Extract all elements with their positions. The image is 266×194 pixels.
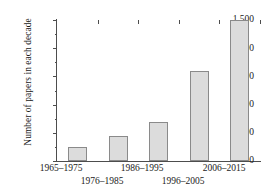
x-label-1986-1995: 1986–1995 (112, 163, 172, 173)
x-label-2006-2015: 2006–2015 (194, 163, 254, 173)
x-tick-5 (260, 20, 261, 24)
x-label-1976-1985: 1976–1985 (72, 176, 132, 186)
bar-1996-2005 (190, 71, 209, 161)
y-tick-1200 (53, 48, 57, 49)
x-label-1996-2005: 1996–2005 (153, 176, 213, 186)
y-minor-tick-1050 (55, 62, 58, 63)
bar-2006-2015 (230, 20, 249, 161)
x-label-1965-1975: 1965–1975 (31, 163, 91, 173)
y-tick-900 (53, 76, 57, 77)
x-tick-4 (219, 20, 220, 24)
y-tick-1500 (53, 20, 57, 21)
y-tick-300 (53, 133, 57, 134)
x-tick-3 (179, 20, 180, 24)
y-tick-0 (53, 161, 57, 162)
y-minor-tick-1350 (55, 34, 58, 35)
y-minor-tick-450 (55, 119, 58, 120)
x-tick-1 (98, 20, 99, 24)
y-tick-600 (53, 105, 57, 106)
bar-chart-figure: Number of papers in each decade 1,500 1,… (0, 0, 266, 194)
bar-1976-1985 (109, 136, 128, 161)
plot-area: 1,500 1,200 900 600 300 0 (57, 20, 260, 161)
bar-1986-1995 (149, 122, 168, 161)
y-minor-tick-750 (55, 91, 58, 92)
y-axis-title: Number of papers in each decade (23, 7, 33, 157)
bar-1965-1975 (68, 147, 87, 161)
x-tick-2 (138, 20, 139, 24)
y-minor-tick-150 (55, 147, 58, 148)
